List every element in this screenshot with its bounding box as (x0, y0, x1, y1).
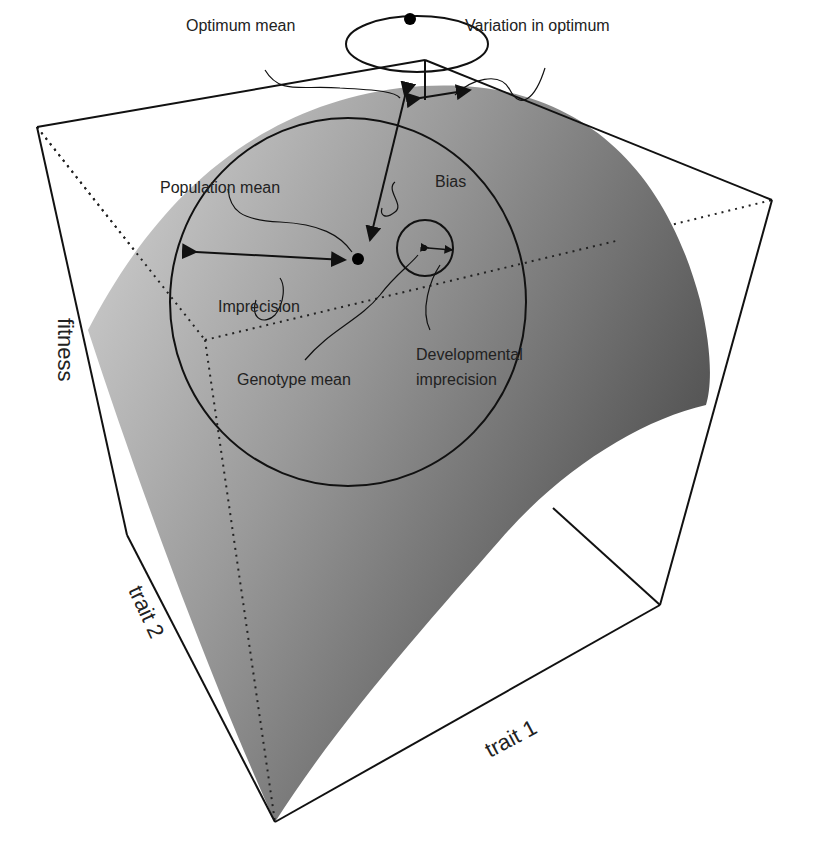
axis-label-fitness: fitness (53, 318, 78, 382)
label-developmental-imprecision-2: imprecision (416, 371, 497, 388)
axis-label-trait-2: trait 2 (123, 582, 169, 642)
label-population-mean: Population mean (160, 179, 280, 196)
fitness-landscape-diagram: Optimum mean Variation in optimum Popula… (0, 0, 815, 857)
label-developmental-imprecision-1: Developmental (416, 346, 523, 363)
optimum-mean-point (404, 13, 416, 25)
label-genotype-mean: Genotype mean (237, 371, 351, 388)
genotype-mean-point (421, 245, 427, 251)
label-imprecision: Imprecision (218, 298, 300, 315)
label-bias: Bias (435, 173, 466, 190)
label-variation-in-optimum: Variation in optimum (465, 17, 610, 34)
label-optimum-mean: Optimum mean (186, 17, 295, 34)
population-mean-point (352, 253, 364, 265)
axis-label-trait-1: trait 1 (481, 715, 541, 763)
